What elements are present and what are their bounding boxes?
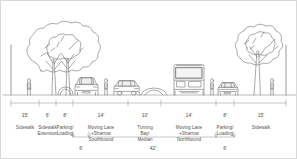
car-front-small-icon: [218, 83, 238, 96]
zone-name-parking-loading-left: Parking/ Loading: [48, 125, 82, 137]
tree-icon: [235, 24, 282, 95]
zone-label-sidewalk-right: 15' Sidewalk: [241, 106, 281, 137]
lower-label-neckdown-right: 6' Neckdown: [206, 139, 244, 159]
zone-label-parking-loading-right: 8' Parking/ Loading: [209, 106, 241, 143]
lower-width-neckdown-right: 6': [206, 145, 244, 151]
zone-name-sidewalk-right: Sidewalk: [241, 125, 281, 131]
car-front-icon: [75, 78, 98, 96]
zone-width-parking-loading-left: 8': [48, 112, 82, 118]
pedestrian-icon-center-right: [211, 79, 214, 95]
street-cross-section-diagram: 15' Sidewalk 6' Sidewalk Extension 8' Pa…: [0, 0, 297, 159]
car-rear-icon: [114, 81, 139, 96]
shrub-icon: [58, 87, 73, 95]
pedestrian-icon-left: [27, 79, 30, 95]
shrub-wide-icon: [141, 88, 167, 95]
zone-label-parking-loading-left: 8' Parking/ Loading: [48, 106, 82, 143]
zone-width-parking-loading-right: 8': [209, 112, 241, 118]
lower-label-neckdown-left: 6' Neckdown: [62, 139, 100, 159]
lower-name-max-crossing-distance: Max. Crossing Distance: [107, 158, 199, 159]
zone-name-parking-loading-right: Parking/ Loading: [209, 125, 241, 137]
zone-width-moving-lane-northbound: 14': [166, 112, 212, 118]
lower-width-neckdown-left: 6': [62, 145, 100, 151]
pedestrian-icon-right: [271, 79, 274, 95]
lower-label-max-crossing-distance: 42' Max. Crossing Distance: [107, 139, 199, 159]
lower-width-max-crossing-distance: 42': [107, 145, 199, 151]
zone-width-turning-bay-median: 10': [128, 112, 162, 118]
pedestrian-icon-center-left: [105, 79, 108, 95]
lower-name-neckdown-left: Neckdown: [62, 158, 100, 159]
lower-name-neckdown-right: Neckdown: [206, 158, 244, 159]
zone-width-sidewalk-right: 15': [241, 112, 281, 118]
zone-width-moving-lane-southbound: 14': [78, 112, 124, 118]
bus-front-icon: [174, 65, 204, 95]
